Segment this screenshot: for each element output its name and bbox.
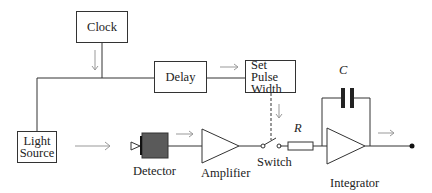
capacitor-label: C (339, 63, 347, 78)
block-diagram: Clock Delay Set Pulse Width Light Source… (0, 0, 432, 193)
light-source-label: Light Source (19, 135, 55, 159)
switch-label: Switch (257, 155, 292, 170)
resistor-label: R (294, 121, 302, 136)
detector-label: Detector (133, 164, 176, 179)
set-pulse-width-block: Set Pulse Width (245, 60, 296, 93)
delay-block: Delay (154, 61, 207, 93)
clock-block: Clock (76, 11, 128, 43)
amplifier-label: Amplifier (201, 166, 250, 181)
wiring (0, 0, 432, 193)
clock-label: Clock (87, 21, 117, 33)
light-source-block: Light Source (17, 131, 57, 163)
integrator-label: Integrator (330, 176, 379, 191)
set-pulse-width-label: Set Pulse Width (251, 59, 295, 95)
delay-label: Delay (166, 71, 196, 83)
